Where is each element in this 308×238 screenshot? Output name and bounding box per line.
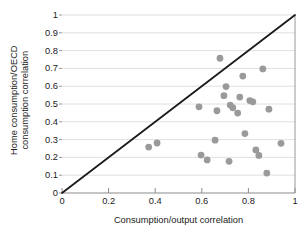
data-point [145,144,152,151]
data-point [278,140,285,147]
data-point [249,98,256,105]
scatter-chart-figure: Home consumption/OECD consumption correl… [0,0,308,238]
data-point [266,106,273,113]
data-point [263,170,270,177]
x-axis-tick-label: 0 [59,196,64,206]
data-point [229,104,236,111]
data-point [154,140,161,147]
data-point [255,152,262,159]
data-point [239,73,246,80]
data-point [226,158,233,165]
x-axis-tick-label: 0.4 [149,196,162,206]
x-axis-tick-label: 0.2 [102,196,115,206]
data-point [259,66,266,73]
data-point [221,92,228,99]
data-point [223,83,230,90]
data-point [198,152,205,159]
x-axis-tick-label: 0.8 [242,196,255,206]
data-point [214,107,221,114]
data-point [217,55,224,62]
data-point [236,94,243,101]
x-axis-tick-label: 1 [292,196,297,206]
data-point [234,110,241,117]
data-point [242,130,249,137]
data-point [196,103,203,110]
data-point [212,137,219,144]
x-axis-tick-label: 0.6 [195,196,208,206]
data-point [204,156,211,163]
